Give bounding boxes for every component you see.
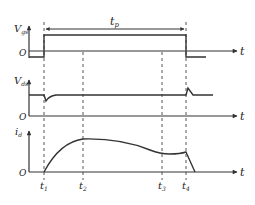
- id-origin-label: O: [19, 168, 27, 178]
- vgs-t-label: t: [240, 45, 245, 58]
- vds-origin-label: O: [19, 112, 27, 122]
- vds-waveform: [29, 88, 213, 101]
- t2-label: t2: [79, 180, 87, 192]
- t4-label: t4: [182, 180, 190, 192]
- vds-t-label: t: [240, 110, 245, 123]
- t3-label: t3: [158, 180, 166, 192]
- time-marker-lines: [44, 22, 186, 180]
- vds-panel: Vds O t: [14, 75, 245, 123]
- t1-label: t1: [40, 180, 48, 192]
- id-label: id: [15, 126, 22, 138]
- timing-diagram: tp Vgs O t Vds O t id O t t1 t2 t3 t4: [0, 0, 255, 205]
- vgs-label: Vgs: [14, 23, 28, 36]
- vgs-waveform: [29, 35, 206, 57]
- vgs-panel: tp Vgs O t: [14, 15, 245, 58]
- vgs-origin-label: O: [19, 48, 27, 58]
- tp-label: tp: [110, 15, 119, 29]
- vds-label: Vds: [14, 75, 28, 87]
- id-waveform: [44, 139, 195, 172]
- time-marker-labels: t1 t2 t3 t4: [40, 180, 190, 192]
- id-t-label: t: [240, 166, 245, 179]
- id-panel: id O t: [15, 126, 245, 179]
